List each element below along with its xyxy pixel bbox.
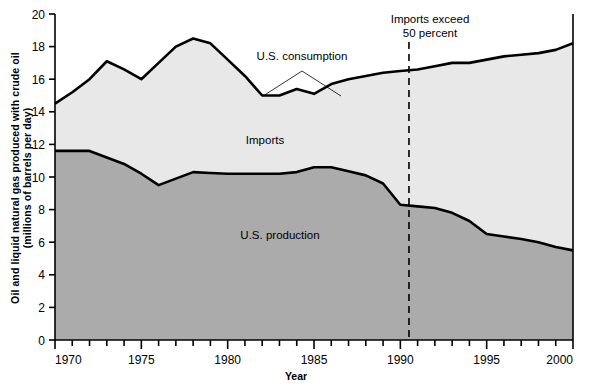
x-tick-label: 1995 xyxy=(473,353,500,367)
x-tick-label: 1980 xyxy=(214,353,241,367)
area-chart-svg: 02468101214161820 1970197519801985199019… xyxy=(0,0,592,389)
milestone-label-line1: Imports exceed xyxy=(391,13,470,25)
imports-label: Imports xyxy=(246,134,285,146)
y-tick-label: 12 xyxy=(32,138,46,152)
consumption-label: U.S. consumption xyxy=(257,50,348,62)
x-axis-ticks xyxy=(55,340,573,349)
y-tick-label: 16 xyxy=(32,73,46,87)
y-tick-label: 0 xyxy=(38,334,45,348)
y-tick-label: 6 xyxy=(38,236,45,250)
y-tick-label: 10 xyxy=(32,171,46,185)
x-axis-tick-labels: 1970197519801985199019952000 xyxy=(55,353,573,367)
x-tick-label: 1985 xyxy=(301,353,328,367)
y-tick-label: 8 xyxy=(38,203,45,217)
y-tick-label: 4 xyxy=(38,268,45,282)
x-axis-title: Year xyxy=(0,370,592,382)
y-tick-label: 2 xyxy=(38,301,45,315)
y-axis-ticks xyxy=(49,14,55,340)
y-tick-label: 20 xyxy=(32,8,46,22)
y-axis-tick-labels: 02468101214161820 xyxy=(32,8,46,348)
x-tick-label: 2000 xyxy=(546,353,573,367)
chart-areas xyxy=(55,38,573,340)
x-tick-label: 1975 xyxy=(128,353,155,367)
production-label: U.S. production xyxy=(240,229,319,241)
milestone-label-line2: 50 percent xyxy=(403,27,458,39)
x-tick-label: 1990 xyxy=(387,353,414,367)
y-tick-label: 18 xyxy=(32,40,46,54)
x-tick-label: 1970 xyxy=(55,353,82,367)
chart-figure: 02468101214161820 1970197519801985199019… xyxy=(0,0,592,389)
y-tick-label: 14 xyxy=(32,105,46,119)
